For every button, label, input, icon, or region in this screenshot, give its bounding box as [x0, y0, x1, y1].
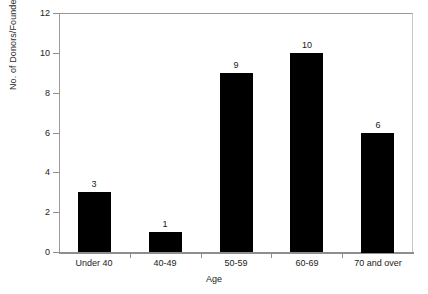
y-tick-mark	[53, 53, 59, 54]
y-tick-mark	[53, 212, 59, 213]
bar	[290, 53, 323, 252]
x-axis-title: Age	[0, 274, 428, 284]
y-tick-mark	[53, 133, 59, 134]
y-tick-label: 2	[22, 207, 50, 217]
x-tick-mark	[130, 253, 131, 258]
y-tick-label: 6	[22, 128, 50, 138]
x-category-label: 60-69	[295, 258, 318, 268]
y-tick-mark	[53, 93, 59, 94]
bar-value-label: 6	[375, 120, 380, 130]
x-category-label: 40-49	[153, 258, 176, 268]
x-tick-mark	[342, 253, 343, 258]
y-tick-label: 0	[22, 247, 50, 257]
x-tick-mark	[201, 253, 202, 258]
y-axis-title: No. of Donors/Founders	[8, 0, 22, 90]
bar-value-label: 1	[162, 219, 167, 229]
y-tick-mark	[53, 13, 59, 14]
bar	[220, 73, 253, 252]
y-tick-mark	[53, 252, 59, 253]
x-category-label: 70 and over	[354, 258, 402, 268]
bar-value-label: 10	[302, 40, 312, 50]
bar	[78, 192, 111, 252]
bar	[361, 133, 394, 253]
bar-value-label: 9	[233, 60, 238, 70]
y-tick-label: 12	[22, 8, 50, 18]
x-tick-mark	[271, 253, 272, 258]
x-category-label: Under 40	[75, 258, 112, 268]
bar	[149, 232, 182, 252]
y-tick-label: 8	[22, 88, 50, 98]
y-tick-mark	[53, 172, 59, 173]
y-tick-label: 10	[22, 48, 50, 58]
x-category-label: 50-59	[224, 258, 247, 268]
bar-chart: No. of Donors/Founders 024681012 3Under …	[0, 0, 428, 294]
y-tick-label: 4	[22, 167, 50, 177]
bar-value-label: 3	[91, 179, 96, 189]
